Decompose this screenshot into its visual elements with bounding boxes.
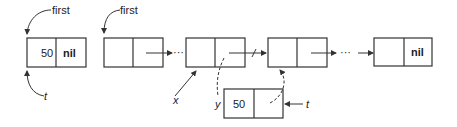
new-node-data: 50 bbox=[233, 98, 245, 110]
ellipsis-1: ··· bbox=[173, 46, 184, 58]
t-pointer-arrow bbox=[27, 71, 44, 96]
x-label: x bbox=[172, 94, 179, 106]
new-link-y-to-next bbox=[270, 70, 284, 103]
x-pointer-arrow bbox=[175, 71, 196, 96]
linked-list-diagram: 50 nil first t first ··· x ··· nil 50 bbox=[0, 0, 457, 127]
last-node-next: nil bbox=[411, 46, 424, 58]
first-label-left: first bbox=[52, 4, 70, 16]
first-label-main: first bbox=[120, 4, 138, 16]
list-node-last: nil bbox=[374, 38, 432, 66]
t-label-right: t bbox=[306, 98, 310, 110]
y-label: y bbox=[214, 98, 222, 110]
first-pointer-arrow bbox=[27, 10, 51, 34]
new-link-x-to-y bbox=[217, 58, 224, 96]
new-node-y: 50 bbox=[224, 89, 283, 118]
single-node-next: nil bbox=[63, 47, 76, 59]
first-main-pointer-arrow bbox=[104, 10, 120, 33]
single-node-data: 50 bbox=[41, 47, 53, 59]
t-label-left: t bbox=[44, 90, 48, 102]
ellipsis-2: ··· bbox=[340, 46, 351, 58]
single-node: 50 nil bbox=[27, 38, 86, 67]
